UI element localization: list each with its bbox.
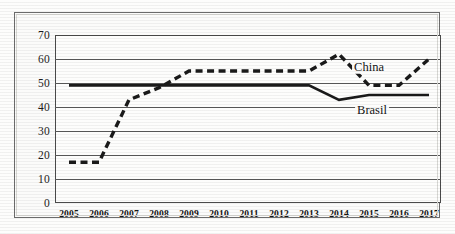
plot-area: 010203040506070 200520062007200820092010… xyxy=(55,35,441,203)
chart-outer-frame: 010203040506070 200520062007200820092010… xyxy=(14,12,440,218)
x-tick-label-2006: 2006 xyxy=(89,208,109,219)
y-tick-label-10: 10 xyxy=(38,173,50,185)
y-tick-label-20: 20 xyxy=(38,149,50,161)
x-tick-label-2009: 2009 xyxy=(179,208,199,219)
y-tick-label-40: 40 xyxy=(38,101,50,113)
x-tick-label-2007: 2007 xyxy=(119,208,139,219)
x-tick-label-2011: 2011 xyxy=(239,208,258,219)
x-tick-label-2017: 2017 xyxy=(419,208,439,219)
y-tick-label-70: 70 xyxy=(38,29,50,41)
x-tick-label-2014: 2014 xyxy=(329,208,349,219)
x-tick-label-2012: 2012 xyxy=(269,208,289,219)
y-tick-label-30: 30 xyxy=(38,125,50,137)
x-tick-label-2015: 2015 xyxy=(359,208,379,219)
annotation-china: China xyxy=(352,61,386,74)
y-tick-label-60: 60 xyxy=(38,53,50,65)
x-tick-label-2016: 2016 xyxy=(389,208,409,219)
series-line-brasil xyxy=(69,85,429,99)
annotation-brasil: Brasil xyxy=(355,104,389,117)
x-tick-label-2008: 2008 xyxy=(149,208,169,219)
x-tick-label-2005: 2005 xyxy=(59,208,79,219)
y-tick-label-0: 0 xyxy=(44,197,50,209)
x-tick-label-2013: 2013 xyxy=(299,208,319,219)
x-tick-label-2010: 2010 xyxy=(209,208,229,219)
chart-screenshot: 010203040506070 200520062007200820092010… xyxy=(0,0,455,234)
y-tick-label-50: 50 xyxy=(38,77,50,89)
